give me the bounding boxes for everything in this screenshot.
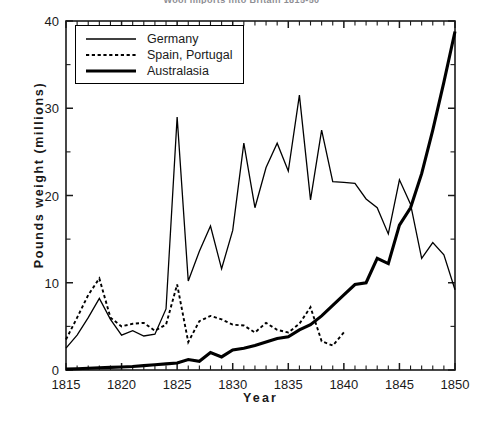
svg-text:20: 20 bbox=[45, 189, 59, 204]
svg-text:40: 40 bbox=[45, 14, 59, 29]
svg-text:1835: 1835 bbox=[274, 377, 303, 392]
svg-text:1815: 1815 bbox=[52, 377, 81, 392]
legend-label-germany: Germany bbox=[147, 32, 198, 46]
svg-text:1820: 1820 bbox=[107, 377, 136, 392]
legend-item-australasia: Australasia bbox=[85, 63, 243, 79]
svg-text:0: 0 bbox=[52, 363, 59, 378]
y-axis-label: Pounds weight (millions) bbox=[32, 50, 46, 300]
legend-swatch-dotted-icon bbox=[85, 48, 137, 62]
legend-swatch-solid-thin-icon bbox=[85, 32, 137, 46]
legend-swatch-solid-thick-icon bbox=[85, 64, 137, 78]
legend-label-australasia: Australasia bbox=[147, 64, 209, 78]
legend: Germany Spain, Portugal Australasia bbox=[75, 25, 244, 84]
svg-text:1830: 1830 bbox=[218, 377, 247, 392]
chart-figure: Wool imports into Britain 1815-50 181518… bbox=[0, 0, 483, 425]
svg-text:30: 30 bbox=[45, 101, 59, 116]
svg-text:1850: 1850 bbox=[441, 377, 470, 392]
legend-item-germany: Germany bbox=[85, 31, 243, 47]
svg-text:1845: 1845 bbox=[385, 377, 414, 392]
series-line-spain-portugal bbox=[66, 278, 344, 345]
svg-text:1825: 1825 bbox=[163, 377, 192, 392]
legend-item-spain-portugal: Spain, Portugal bbox=[85, 47, 243, 63]
series-line-germany bbox=[66, 95, 455, 348]
x-axis-label: Year bbox=[66, 391, 455, 405]
legend-label-spain-portugal: Spain, Portugal bbox=[147, 48, 232, 62]
svg-text:10: 10 bbox=[45, 276, 59, 291]
svg-text:1840: 1840 bbox=[329, 377, 358, 392]
